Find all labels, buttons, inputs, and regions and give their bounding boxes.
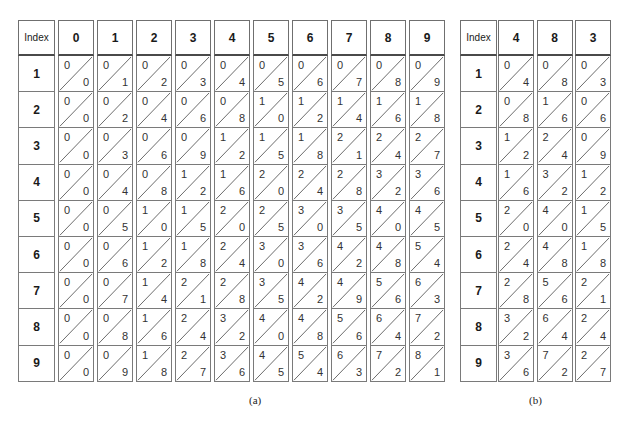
product-cell: 45: [253, 346, 289, 382]
product-cell: 40: [370, 201, 406, 237]
tens-digit: 0: [103, 276, 109, 288]
units-digit: 9: [434, 76, 440, 88]
product-cell: 12: [136, 237, 172, 273]
units-digit: 2: [317, 293, 323, 305]
product-cell: 45: [409, 201, 445, 237]
tens-digit: 1: [142, 349, 148, 361]
tens-digit: 2: [376, 131, 382, 143]
tens-digit: 2: [581, 276, 587, 288]
product-cell: 28: [331, 165, 367, 201]
units-digit: 0: [83, 257, 89, 269]
tens-digit: 1: [504, 168, 510, 180]
units-digit: 6: [561, 293, 567, 305]
units-digit: 3: [122, 149, 128, 161]
index-strip: Index 123456789: [460, 20, 497, 382]
product-cell: 09: [575, 128, 611, 164]
tens-digit: 0: [64, 168, 70, 180]
product-cell: 49: [331, 273, 367, 309]
product-cell: 18: [575, 237, 611, 273]
column-header: 8: [370, 20, 406, 56]
index-header: Index: [18, 20, 55, 56]
product-cell: 02: [136, 56, 172, 92]
tens-digit: 8: [415, 349, 421, 361]
product-cell: 08: [537, 56, 573, 92]
tens-digit: 4: [543, 240, 549, 252]
units-digit: 6: [239, 366, 245, 378]
units-digit: 2: [161, 76, 167, 88]
index-row-label: 7: [460, 273, 497, 309]
units-digit: 6: [161, 149, 167, 161]
units-digit: 6: [317, 257, 323, 269]
tens-digit: 5: [415, 240, 421, 252]
product-cell: 10: [253, 92, 289, 128]
tens-digit: 0: [142, 59, 148, 71]
tens-digit: 0: [103, 131, 109, 143]
product-cell: 48: [370, 237, 406, 273]
units-digit: 0: [278, 257, 284, 269]
units-digit: 8: [434, 112, 440, 124]
units-digit: 2: [395, 185, 401, 197]
product-cell: 00: [58, 201, 94, 237]
product-cell: 72: [370, 346, 406, 382]
column-header: 4: [214, 20, 250, 56]
tens-digit: 5: [376, 276, 382, 288]
index-row-label: 5: [18, 201, 55, 237]
units-digit: 5: [278, 76, 284, 88]
bone-strip: 4040812162024283236: [214, 20, 250, 382]
product-cell: 02: [97, 92, 133, 128]
tens-digit: 2: [581, 349, 587, 361]
tens-digit: 5: [543, 276, 549, 288]
units-digit: 6: [356, 330, 362, 342]
product-cell: 36: [214, 346, 250, 382]
units-digit: 6: [395, 293, 401, 305]
index-row-label: 2: [460, 92, 497, 128]
tens-digit: 4: [376, 240, 382, 252]
units-digit: 6: [200, 112, 206, 124]
column-header: 5: [253, 20, 289, 56]
product-cell: 00: [58, 56, 94, 92]
index-row-label: 3: [18, 128, 55, 164]
units-digit: 8: [239, 112, 245, 124]
index-row-label: 3: [460, 128, 497, 164]
product-cell: 09: [97, 346, 133, 382]
units-digit: 8: [523, 293, 529, 305]
index-row-label: 1: [460, 56, 497, 92]
product-cell: 06: [575, 92, 611, 128]
units-digit: 4: [395, 149, 401, 161]
units-digit: 0: [83, 149, 89, 161]
tens-digit: 0: [64, 59, 70, 71]
bone-strip: 6061218243036424854: [292, 20, 328, 382]
caption-a: (a): [249, 394, 261, 406]
product-cell: 32: [370, 165, 406, 201]
units-digit: 0: [239, 221, 245, 233]
units-digit: 5: [356, 221, 362, 233]
bone-strip: 8081624324048566472: [370, 20, 406, 382]
index-row-label: 2: [18, 92, 55, 128]
tens-digit: 3: [220, 312, 226, 324]
product-cell: 63: [409, 273, 445, 309]
index-strip: Index 123456789: [18, 20, 55, 382]
product-cell: 56: [370, 273, 406, 309]
units-digit: 4: [122, 185, 128, 197]
product-cell: 56: [331, 309, 367, 345]
units-digit: 4: [395, 330, 401, 342]
tens-digit: 3: [298, 240, 304, 252]
product-cell: 09: [175, 128, 211, 164]
column-header: 8: [537, 20, 573, 56]
tens-digit: 0: [581, 131, 587, 143]
bone-strip: 1010203040506070809: [97, 20, 133, 382]
product-cell: 24: [214, 237, 250, 273]
units-digit: 8: [200, 257, 206, 269]
index-row-label: 8: [18, 309, 55, 345]
units-digit: 9: [122, 366, 128, 378]
tens-digit: 0: [142, 168, 148, 180]
tens-digit: 0: [103, 168, 109, 180]
tens-digit: 0: [103, 349, 109, 361]
product-cell: 81: [409, 346, 445, 382]
units-digit: 8: [122, 330, 128, 342]
units-digit: 4: [523, 257, 529, 269]
tens-digit: 3: [259, 240, 265, 252]
product-cell: 27: [575, 346, 611, 382]
product-cell: 21: [575, 273, 611, 309]
product-cell: 08: [214, 92, 250, 128]
